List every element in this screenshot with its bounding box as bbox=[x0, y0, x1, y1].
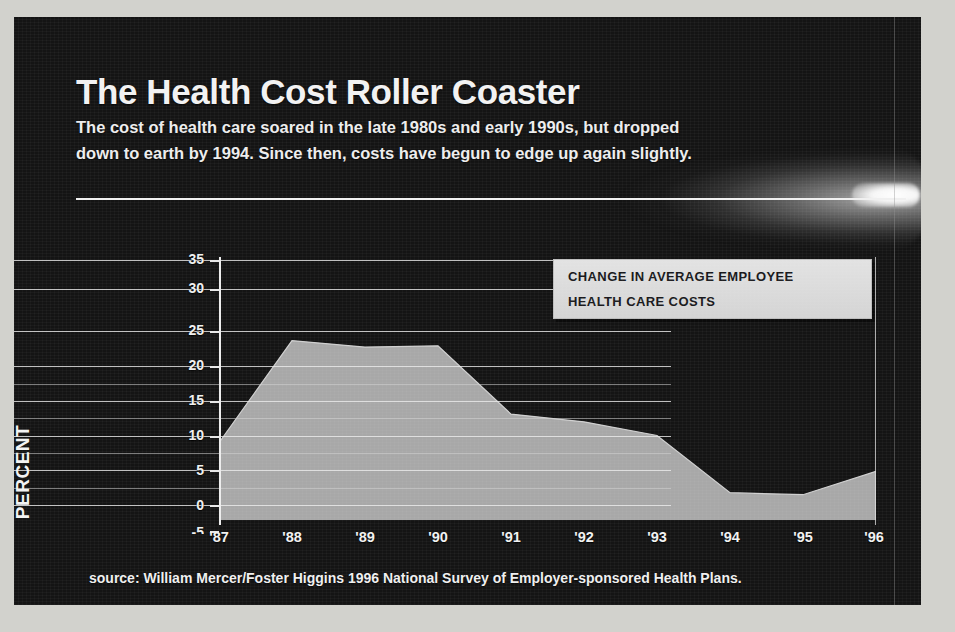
legend-line-1: CHANGE IN AVERAGE EMPLOYEE bbox=[568, 269, 794, 284]
gridline-minor-12 bbox=[14, 418, 671, 419]
area-series-fill bbox=[219, 341, 876, 520]
y-axis-line bbox=[219, 257, 221, 525]
gridline-minor-17 bbox=[14, 384, 671, 385]
source-note: source: William Mercer/Foster Higgins 19… bbox=[89, 570, 742, 586]
frame-edge-bottom bbox=[0, 605, 955, 632]
y-label-3: 20 bbox=[164, 357, 204, 373]
gridline-20 bbox=[14, 366, 671, 367]
x-label-2: '89 bbox=[335, 529, 395, 545]
legend-line-2: HEALTH CARE COSTS bbox=[568, 294, 715, 309]
x-label-7: '94 bbox=[700, 529, 760, 545]
y-tick-10 bbox=[210, 436, 219, 438]
y-tick-35 bbox=[210, 260, 219, 262]
y-tick-20 bbox=[210, 366, 219, 368]
x-label-9: '96 bbox=[844, 529, 904, 545]
x-label-6: '93 bbox=[627, 529, 687, 545]
gridline-minor-2 bbox=[14, 488, 671, 489]
y-tick-30 bbox=[210, 289, 219, 291]
x-label-5: '92 bbox=[554, 529, 614, 545]
gridline-10 bbox=[14, 436, 671, 437]
plot-right-border bbox=[875, 257, 876, 525]
board-seam bbox=[894, 17, 895, 605]
y-tick-5 bbox=[210, 470, 219, 472]
y-label-1: 30 bbox=[164, 280, 204, 296]
slide-board: The Health Cost Roller Coaster The cost … bbox=[14, 17, 935, 605]
gridline-25 bbox=[14, 331, 671, 332]
x-label-1: '88 bbox=[262, 529, 322, 545]
y-label-6: 5 bbox=[164, 462, 204, 478]
x-label-0: '87 bbox=[189, 529, 249, 545]
slide-frame: The Health Cost Roller Coaster The cost … bbox=[0, 0, 955, 632]
y-label-2: 25 bbox=[164, 322, 204, 338]
x-label-4: '91 bbox=[481, 529, 541, 545]
y-label-5: 10 bbox=[164, 427, 204, 443]
gridline-5 bbox=[14, 470, 671, 471]
y-label-7: 0 bbox=[164, 497, 204, 513]
gridline-0 bbox=[14, 505, 671, 506]
chart-legend: CHANGE IN AVERAGE EMPLOYEE HEALTH CARE C… bbox=[553, 259, 872, 319]
x-label-8: '95 bbox=[773, 529, 833, 545]
x-label-3: '90 bbox=[408, 529, 468, 545]
gridline-minor-7 bbox=[14, 453, 671, 454]
y-axis-title: PERCENT bbox=[14, 362, 34, 582]
frame-edge-right bbox=[921, 0, 955, 632]
y-label-0: 35 bbox=[164, 251, 204, 267]
y-tick-15 bbox=[210, 401, 219, 403]
y-tick-labels: 35 30 25 20 15 10 5 0 -5 bbox=[159, 17, 204, 605]
y-tick-0 bbox=[210, 505, 219, 507]
y-tick-25 bbox=[210, 331, 219, 333]
gridline-15 bbox=[14, 401, 671, 402]
y-label-4: 15 bbox=[164, 392, 204, 408]
chart-area: 35 30 25 20 15 10 5 0 -5 PERCENT '87 '88… bbox=[14, 17, 935, 605]
